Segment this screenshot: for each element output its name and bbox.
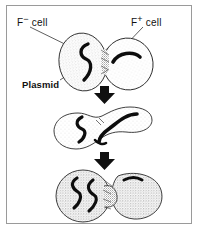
conjugation-junction: [101, 49, 109, 75]
diagram-canvas: [0, 0, 199, 231]
donor-cell: [112, 173, 162, 219]
conjugation-figure: F− cell F+ cell Plasmid: [0, 0, 199, 231]
arrow-stage1-to-stage2: [94, 86, 115, 104]
arrow-stage2-to-stage3: [94, 152, 115, 170]
recipient-cell: [56, 170, 110, 222]
label-plasmid: Plasmid: [22, 79, 59, 90]
label-f-plus-cell: F+ cell: [131, 14, 162, 28]
stage-1-contact: [55, 30, 159, 96]
label-f-minus-cell: F− cell: [17, 14, 48, 28]
label-f-plus-suffix: cell: [143, 17, 162, 28]
stage-3-separation: [56, 170, 162, 222]
stage-2-transfer: [54, 107, 152, 149]
label-f-minus-suffix: cell: [29, 17, 48, 28]
